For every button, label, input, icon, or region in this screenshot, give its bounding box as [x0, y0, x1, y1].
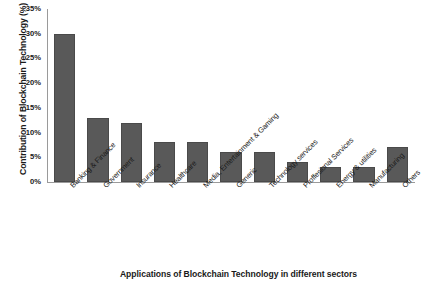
bar-slot: [148, 9, 181, 182]
y-axis-tick-label: 35%: [26, 5, 41, 13]
y-axis-tick-label: 5%: [30, 154, 41, 162]
y-axis-tick-label: 25%: [26, 55, 41, 63]
bar-slot: [248, 9, 281, 182]
y-axis-tick-label: 20%: [26, 79, 41, 87]
bar-slot: [181, 9, 214, 182]
bar: [54, 34, 75, 182]
y-axis-tick-label: 0%: [30, 178, 41, 186]
y-axis-tick-label: 30%: [26, 30, 41, 38]
bar-slot: [48, 9, 81, 182]
bar-chart: Contribution of Blockchain Technology (%…: [0, 0, 425, 289]
y-axis-tick-label: 10%: [26, 129, 41, 137]
x-axis-title: Applications of Blockchain Technology in…: [0, 269, 425, 279]
y-axis-tick-label: 15%: [26, 104, 41, 112]
y-axis-tick-labels: 35% 30% 25% 20% 15% 10% 5% 0%: [0, 0, 45, 183]
